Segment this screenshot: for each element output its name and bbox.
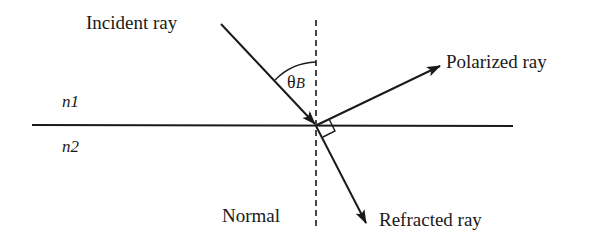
brewster-angle-label: θB [287,73,305,91]
polarized-ray-label: Polarized ray [446,52,547,71]
incident-ray-label: Incident ray [86,13,177,32]
brewster-angle-diagram: Incident ray Polarized ray Refracted ray… [0,0,615,247]
normal-label: Normal [222,206,280,225]
diagram-canvas [0,0,615,247]
angle-subscript: B [296,75,305,91]
refracted-ray-arrow [316,126,366,223]
interface-line [32,125,513,126]
medium-n2-label: n2 [62,138,79,155]
medium-n1-label: n1 [62,93,79,110]
polarized-ray-arrow [317,66,440,125]
theta-symbol: θ [287,72,296,92]
refracted-ray-label: Refracted ray [379,210,482,229]
